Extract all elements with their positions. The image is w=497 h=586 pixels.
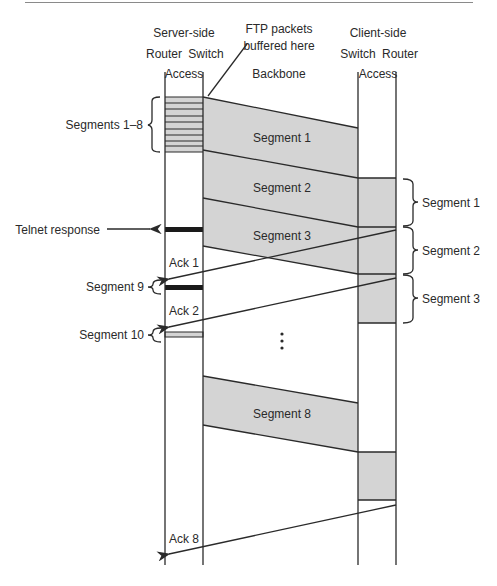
client-switch-label: Switch: [340, 47, 375, 61]
client-access-buffer-8: [358, 452, 396, 500]
ack-8-label: Ack 8: [169, 532, 199, 546]
right-label-segment-3: Segment 3: [422, 292, 480, 306]
client-access-buffer-1-3: [358, 178, 396, 323]
segment-9-brace: [148, 280, 161, 294]
band-label-segment-1: Segment 1: [253, 131, 311, 145]
ellipsis-icon: [280, 332, 283, 349]
ftp-note-line2: buffered here: [243, 39, 314, 53]
segment-10-label: Segment 10: [79, 328, 144, 342]
band-label-segment-3: Segment 3: [253, 229, 311, 243]
client-access-label: Access: [359, 67, 398, 81]
backbone-label: Backbone: [252, 67, 306, 81]
segment-10-brace: [148, 328, 161, 342]
right-label-segment-2: Segment 2: [422, 244, 480, 258]
telnet-response-bar: [165, 227, 203, 232]
server-buffer-segments-1-8: [165, 97, 203, 152]
right-brace-segment-2: [403, 227, 418, 274]
segment-9-bar: [165, 285, 203, 290]
server-router-label: Router: [146, 47, 182, 61]
ftp-telnet-timing-diagram: Server-side Router Switch Access FTP pac…: [0, 0, 497, 586]
ack-1-label: Ack 1: [169, 256, 199, 270]
right-brace-segment-1: [403, 179, 418, 226]
telnet-response-label: Telnet response: [15, 223, 100, 237]
right-label-segment-1: Segment 1: [422, 196, 480, 210]
segment-9-label: Segment 9: [86, 280, 144, 294]
segments-1-8-label: Segments 1–8: [66, 118, 144, 132]
segments-1-8-brace: [148, 97, 160, 152]
right-brace-segment-3: [403, 275, 418, 323]
client-side-label: Client-side: [350, 26, 407, 40]
segment-10-bar: [165, 332, 203, 337]
ack-2-label: Ack 2: [169, 304, 199, 318]
client-router-label: Router: [382, 47, 418, 61]
server-access-label: Access: [165, 67, 204, 81]
server-side-label: Server-side: [153, 26, 215, 40]
ftp-note-line1: FTP packets: [245, 22, 312, 36]
server-switch-label: Switch: [188, 47, 223, 61]
band-label-segment-2: Segment 2: [253, 181, 311, 195]
band-label-segment-8: Segment 8: [253, 407, 311, 421]
